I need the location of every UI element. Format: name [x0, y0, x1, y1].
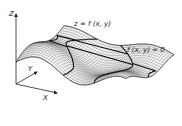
surface-diagram — [0, 0, 182, 126]
x-axis — [16, 84, 57, 93]
x-axis-label: X — [43, 95, 48, 102]
z-axis-label: Z — [9, 11, 14, 18]
y-axis — [16, 72, 37, 84]
contour-equation-label: f (x, y) = 0 — [127, 47, 165, 54]
surface-mesh — [16, 26, 174, 85]
surface-equation-label: z = f (x, y) — [74, 21, 111, 28]
y-axis-label: Y — [28, 66, 32, 73]
